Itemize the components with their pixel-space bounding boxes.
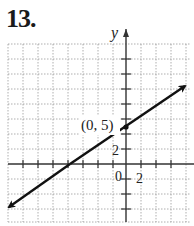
y-intercept-point xyxy=(123,124,128,129)
y-tick-label-2: 2 xyxy=(112,143,119,158)
coordinate-graph: y (0, 5) 2 0 2 xyxy=(0,0,194,226)
y-axis-label: y xyxy=(109,24,119,42)
graphed-line-lower xyxy=(9,164,70,207)
origin-label: 0 xyxy=(115,169,122,184)
x-tick-label-2: 2 xyxy=(136,171,143,186)
point-label: (0, 5) xyxy=(81,117,114,134)
